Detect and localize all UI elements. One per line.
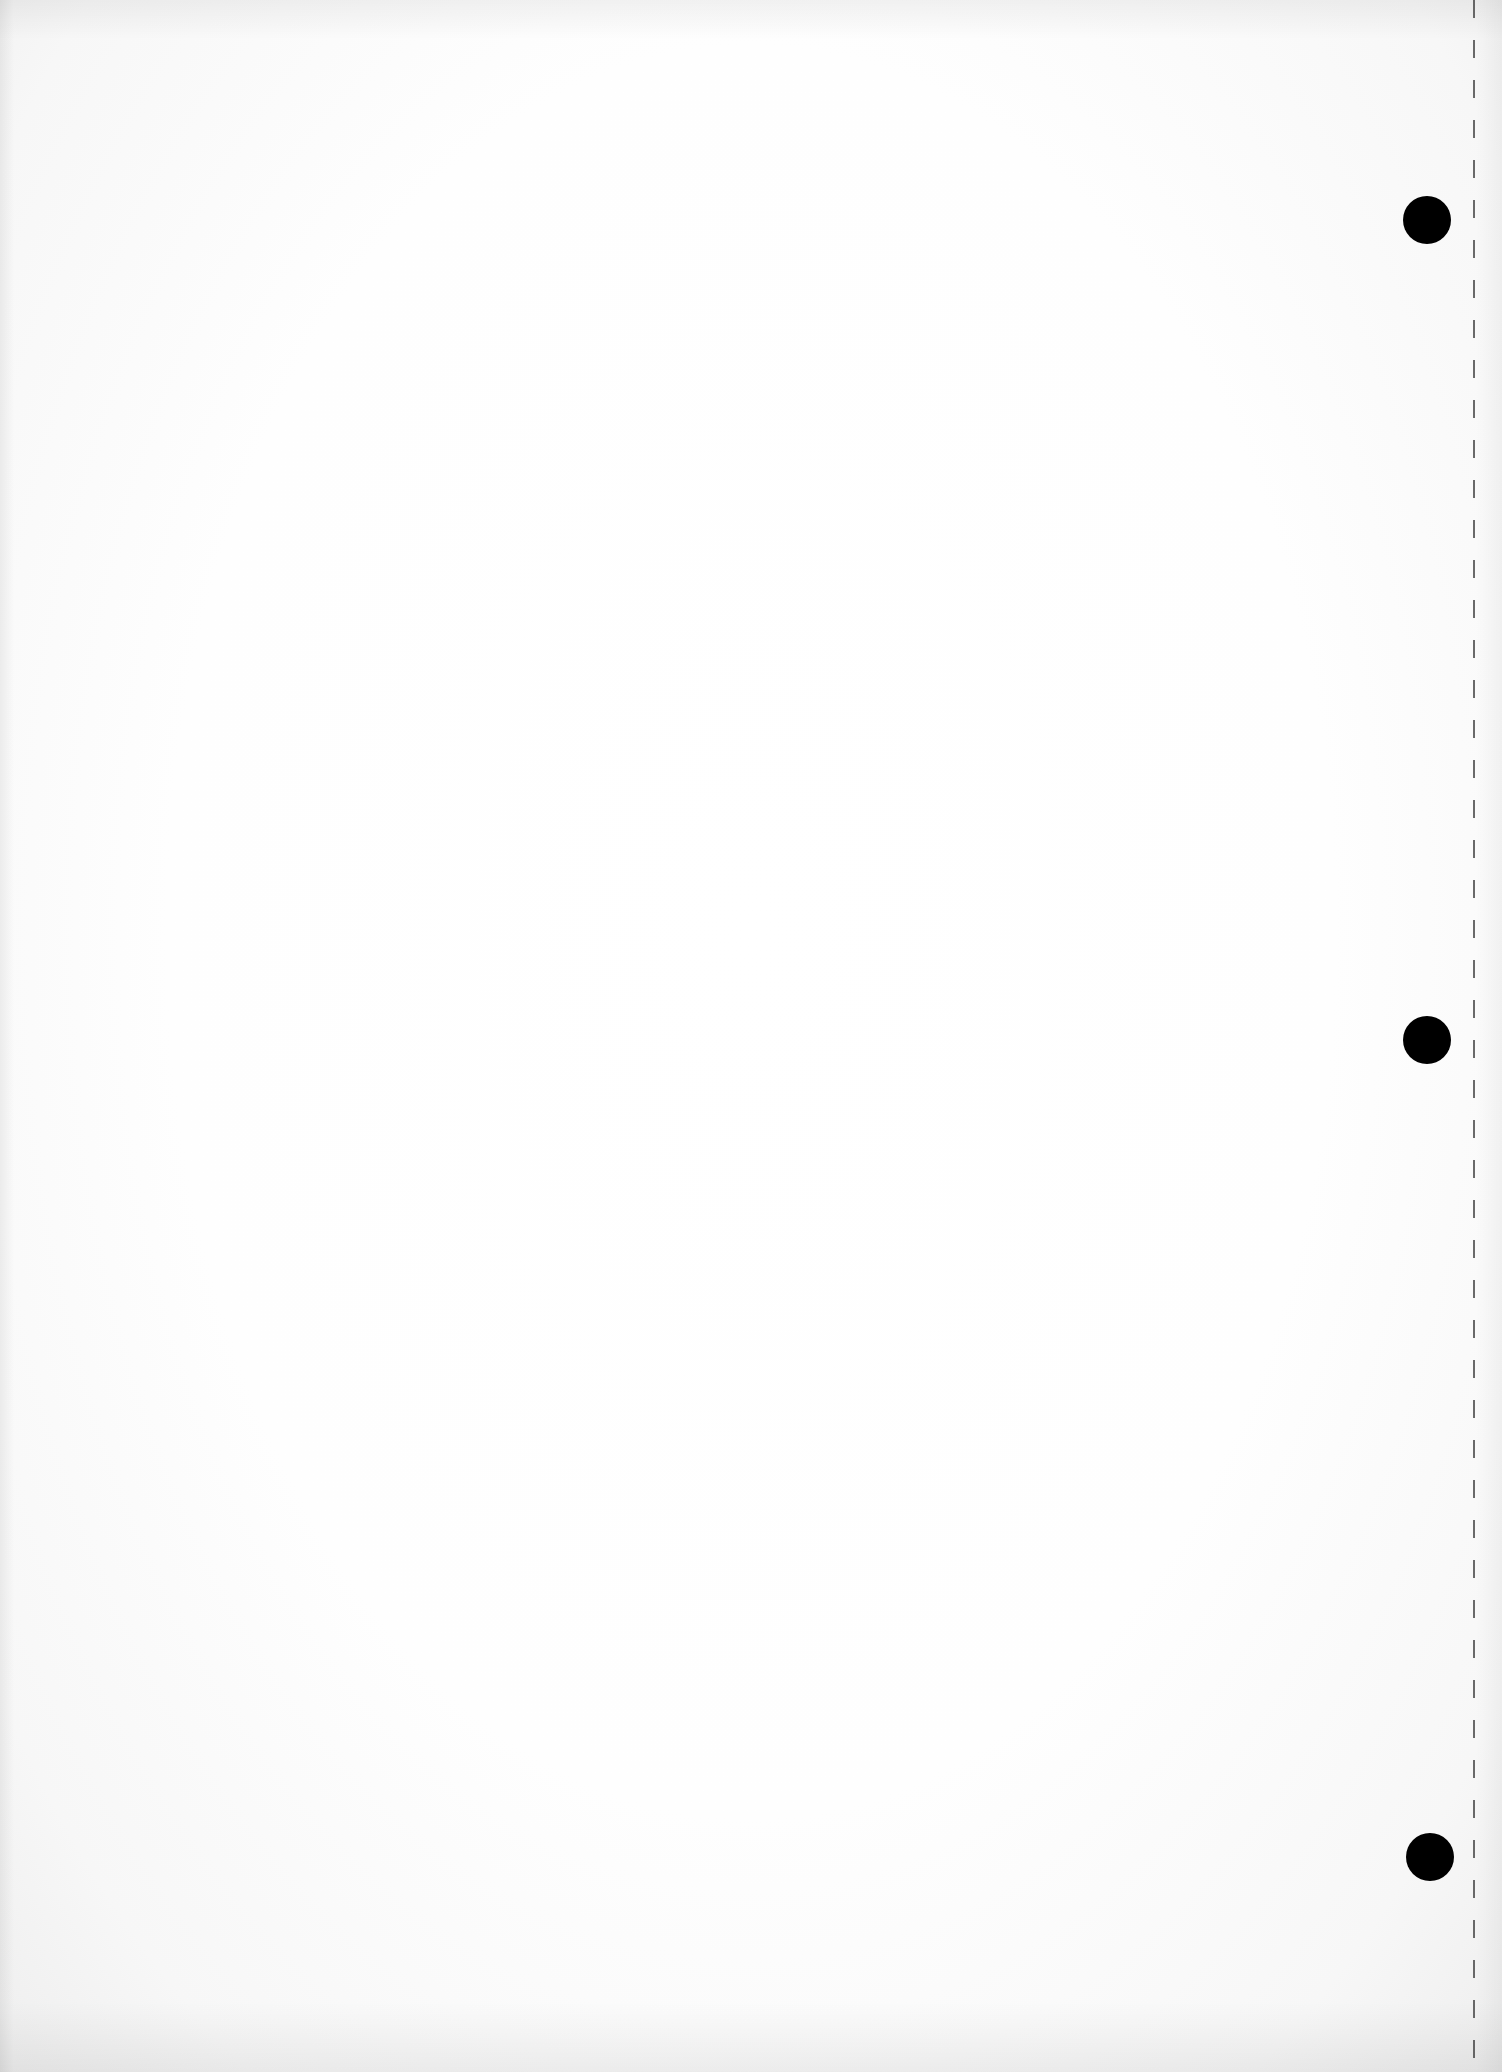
scan-edge-shadow-right	[1476, 0, 1502, 2072]
perforation-line	[1473, 0, 1475, 2072]
punch-hole-middle	[1403, 1016, 1451, 1064]
blank-paper-sheet	[0, 0, 1502, 2072]
scan-edge-shadow-bottom	[0, 2002, 1502, 2072]
scan-edge-shadow-top	[0, 0, 1502, 40]
punch-hole-bottom	[1406, 1833, 1454, 1881]
punch-hole-top	[1403, 196, 1451, 244]
scan-edge-shadow-left	[0, 0, 14, 2072]
